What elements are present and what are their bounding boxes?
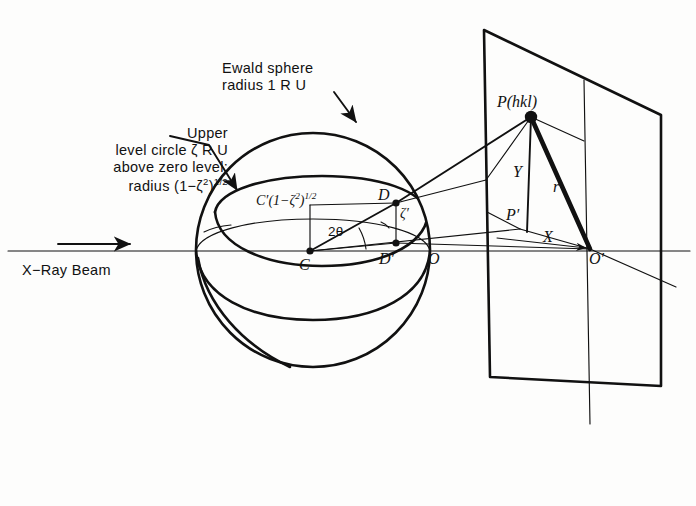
- line-Dprime-Oprime: [396, 243, 590, 249]
- label-point-c: C: [299, 256, 310, 275]
- label-two-theta: 2θ: [328, 224, 344, 240]
- label-upper-level-circle: Upper level circle ζ R U above zero leve…: [28, 125, 228, 195]
- detector-plane: [484, 30, 661, 424]
- label-point-o-prime: O′: [589, 250, 604, 269]
- label-radius-r: r: [553, 178, 559, 197]
- label-upper-radius-prefix: radius (1−ζ: [128, 178, 203, 194]
- label-upper-level-line4: radius (1−ζ2)1/2: [28, 176, 228, 195]
- label-cprime-prefix: C′(1−ζ: [256, 193, 295, 208]
- segment-D-P: [396, 117, 531, 203]
- label-point-p-hkl: P(hkl): [497, 93, 537, 112]
- ewald-sphere-figure: Ewald sphere radius 1 R U Upper level ci…: [0, 0, 696, 506]
- label-point-o: O: [428, 250, 440, 269]
- point-marker-Dprime: [392, 239, 399, 246]
- label-c-prime-radius: C′(1−ζ2)1/2: [256, 191, 316, 209]
- sphere-meridian-arc: [198, 258, 290, 367]
- label-point-d: D: [378, 186, 390, 205]
- segment-P-Pprime-Y: [527, 117, 531, 232]
- label-cprime-exp2: 1/2: [304, 191, 316, 201]
- line-planeleft-P: [486, 117, 531, 180]
- label-ewald-sphere: Ewald sphere radius 1 R U: [222, 60, 313, 94]
- label-upper-level-line3: above zero level;: [28, 159, 228, 176]
- label-axis-x: X: [543, 228, 553, 247]
- line-Pprime-Oprime-X: [520, 229, 590, 249]
- label-ewald-sphere-line1: Ewald sphere: [222, 60, 313, 77]
- label-point-p-prime: P′: [506, 206, 519, 225]
- label-upper-level-line2: level circle ζ R U: [28, 142, 228, 159]
- detector-plane-left-edge: [484, 30, 490, 377]
- label-axis-y: Y: [513, 163, 522, 182]
- label-ewald-sphere-line2: radius 1 R U: [222, 77, 313, 94]
- sphere-upper-tick: [204, 225, 231, 232]
- label-upper-level-line1: Upper: [28, 125, 228, 142]
- point-marker-P: [525, 111, 537, 123]
- label-xray-beam: X−Ray Beam: [22, 262, 111, 279]
- segment-P-Oprime-r: [531, 117, 590, 249]
- zero-level-front-arc: [196, 251, 430, 320]
- label-upper-radius-exp2: 1/2: [214, 176, 228, 187]
- leader-ewald-sphere: [334, 92, 356, 122]
- zero-level-circle: [196, 219, 430, 320]
- point-marker-C: [306, 247, 313, 254]
- label-point-d-prime: D′: [379, 250, 394, 269]
- label-zeta-prime: ζ′: [400, 206, 409, 223]
- point-marker-D: [392, 199, 399, 206]
